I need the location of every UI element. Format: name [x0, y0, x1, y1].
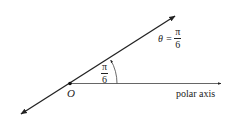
- origin-label: O: [67, 88, 75, 99]
- ray-fraction-numerator: π: [174, 27, 181, 39]
- ray-equation-label: θ = π 6: [158, 27, 181, 50]
- polar-diagram: [0, 0, 232, 117]
- theta-ray: [21, 16, 175, 114]
- ray-equation-fraction: π 6: [174, 27, 181, 50]
- angle-fraction-numerator: π: [101, 62, 108, 74]
- ray-fraction-denominator: 6: [175, 39, 180, 50]
- angle-arc: [111, 60, 117, 84]
- polar-axis-label: polar axis: [176, 89, 215, 99]
- ray-equation-lhs: θ =: [158, 34, 172, 44]
- angle-fraction-denominator: 6: [102, 74, 107, 85]
- origin-point: [68, 82, 72, 86]
- angle-label: π 6: [101, 62, 108, 85]
